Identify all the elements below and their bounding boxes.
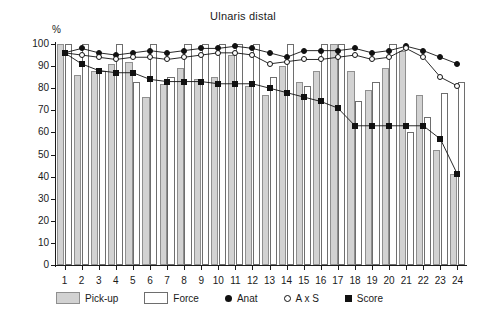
y-tick-label: 60: [38, 127, 49, 137]
x-tick: [218, 265, 219, 270]
x-tick: [167, 265, 168, 270]
y-tick-label: 90: [38, 61, 49, 71]
x-tick: [372, 265, 373, 270]
chart-figure: Ulnaris distal % 0102030405060708090100 …: [0, 0, 486, 321]
marker-axs: [267, 61, 273, 67]
x-tick: [440, 265, 441, 270]
y-axis-unit-label: %: [52, 24, 61, 35]
marker-score: [318, 98, 324, 104]
x-tick: [270, 265, 271, 270]
x-tick: [338, 265, 339, 270]
marker-score: [198, 79, 204, 85]
x-tick: [389, 265, 390, 270]
marker-anat: [301, 48, 307, 54]
marker-score: [164, 79, 170, 85]
x-tick: [355, 265, 356, 270]
marker-anat: [181, 48, 187, 54]
x-tick: [423, 265, 424, 270]
y-tick-label: 100: [32, 39, 49, 49]
y-tick-label: 80: [38, 83, 49, 93]
marker-score: [267, 85, 273, 91]
x-tick: [201, 265, 202, 270]
line-series-layer: [56, 44, 466, 265]
marker-anat: [164, 50, 170, 56]
marker-score: [301, 94, 307, 100]
x-tick: [406, 265, 407, 270]
legend-label: A x S: [296, 293, 319, 304]
marker-anat: [267, 50, 273, 56]
line-anat: [65, 46, 458, 64]
y-tick-label: 50: [38, 150, 49, 160]
marker-score: [352, 123, 358, 129]
legend-label: Score: [357, 293, 383, 304]
y-tick-label: 70: [38, 105, 49, 115]
y-tick: [51, 265, 56, 266]
x-tick: [133, 265, 134, 270]
marker-score: [454, 171, 460, 177]
marker-score: [130, 70, 136, 76]
marker-anat: [147, 48, 153, 54]
marker-axs: [352, 52, 358, 58]
marker-score: [369, 123, 375, 129]
marker-score: [335, 105, 341, 111]
x-tick: [457, 265, 458, 270]
marker-anat: [318, 48, 324, 54]
marker-score: [147, 76, 153, 82]
y-tick-label: 20: [38, 216, 49, 226]
marker-score: [403, 123, 409, 129]
x-axis-line: [55, 265, 467, 266]
x-tick: [252, 265, 253, 270]
pickup-swatch: [56, 292, 80, 304]
force-swatch: [144, 292, 168, 304]
marker-axs: [284, 59, 290, 65]
legend-label: Anat: [237, 293, 258, 304]
x-tick: [150, 265, 151, 270]
marker-score: [249, 81, 255, 87]
x-tick-label: 24: [447, 275, 467, 286]
legend-item: A x S: [284, 293, 319, 304]
x-tick: [287, 265, 288, 270]
x-tick: [82, 265, 83, 270]
anat-marker: [225, 295, 232, 302]
marker-axs: [79, 52, 85, 58]
axs-marker: [284, 295, 291, 302]
y-tick-label: 40: [38, 172, 49, 182]
x-tick: [235, 265, 236, 270]
chart-title: Ulnaris distal: [0, 10, 486, 22]
marker-score: [62, 50, 68, 56]
marker-anat: [420, 48, 426, 54]
x-tick: [65, 265, 66, 270]
plot-area: 0102030405060708090100 12345678910111213…: [56, 44, 466, 265]
marker-anat: [335, 48, 341, 54]
y-tick-label: 30: [38, 194, 49, 204]
marker-score: [420, 123, 426, 129]
marker-score: [215, 81, 221, 87]
score-marker: [345, 295, 352, 302]
x-tick: [304, 265, 305, 270]
legend-item: Score: [345, 293, 383, 304]
marker-axs: [96, 54, 102, 60]
line-score: [65, 53, 458, 175]
marker-score: [284, 90, 290, 96]
marker-score: [96, 68, 102, 74]
x-tick: [116, 265, 117, 270]
chart-legend: Pick-upForceAnatA x SScore: [56, 292, 476, 304]
marker-anat: [386, 48, 392, 54]
marker-score: [79, 61, 85, 67]
legend-label: Force: [173, 293, 199, 304]
marker-score: [181, 79, 187, 85]
x-tick: [321, 265, 322, 270]
marker-score: [386, 123, 392, 129]
y-tick-label: 0: [43, 260, 49, 270]
marker-score: [232, 81, 238, 87]
x-tick: [184, 265, 185, 270]
legend-item: Anat: [225, 293, 258, 304]
legend-item: Pick-up: [56, 292, 118, 304]
legend-item: Force: [144, 292, 199, 304]
x-tick: [99, 265, 100, 270]
marker-score: [113, 70, 119, 76]
marker-anat: [369, 50, 375, 56]
legend-label: Pick-up: [85, 293, 118, 304]
y-tick-label: 10: [38, 238, 49, 248]
marker-score: [437, 136, 443, 142]
